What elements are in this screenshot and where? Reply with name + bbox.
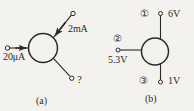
panel-a-graphics: [5, 11, 75, 80]
current-label-upper-right-a: 2mA: [68, 24, 88, 34]
node-marker-3: ③: [139, 76, 148, 86]
node-marker-2: ②: [113, 34, 122, 44]
terminal-dot-top-b: [159, 12, 163, 16]
current-arrow-2ma: [55, 22, 65, 35]
terminal-dot-bottom-b: [159, 80, 163, 84]
panel-caption-a: (a): [36, 96, 47, 106]
voltage-label-terminal-2: 5.3V: [108, 55, 127, 65]
circuit-diagram-canvas: [0, 0, 194, 111]
device-body-b: [142, 38, 169, 65]
terminal-dot-left-b: [116, 48, 120, 52]
panel-b-graphics: [116, 12, 169, 85]
current-label-unknown-a: ?: [77, 74, 82, 85]
node-marker-1: ①: [140, 9, 149, 19]
voltage-label-terminal-3: 1V: [168, 76, 180, 86]
panel-caption-b: (b): [145, 94, 157, 104]
terminal-dot-upper-right-a: [71, 11, 75, 15]
device-body-a: [29, 34, 58, 63]
terminal-dot-left-a: [5, 46, 9, 50]
wire-lower-right-a: [53, 58, 70, 76]
circuit-figure: 20μA 2mA ? (a) ① 6V ② 5.3V ③ 1V (b): [0, 0, 194, 111]
terminal-dot-lower-right-a: [70, 76, 74, 80]
current-label-left-a: 20μA: [3, 52, 25, 62]
voltage-label-terminal-1: 6V: [168, 9, 180, 19]
